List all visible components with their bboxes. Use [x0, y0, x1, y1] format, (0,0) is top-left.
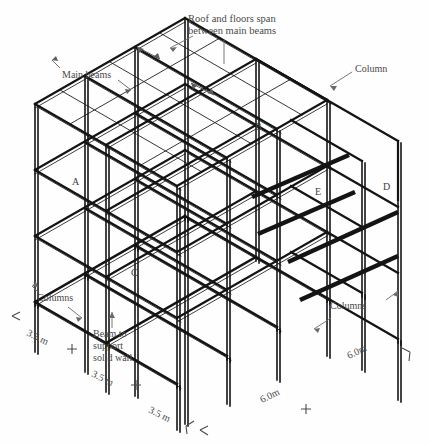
beam-solid-wall-label: Beam to support solid wall — [93, 328, 132, 363]
leader-column — [330, 72, 352, 91]
roof-span-note: Roof and floors span between main beams — [188, 13, 276, 38]
columns-left-label: Columns — [37, 292, 73, 304]
level2-beams-v — [35, 84, 327, 252]
node-label-c: C — [131, 267, 138, 279]
figure-canvas: Roof and floors span between main beams … — [0, 0, 430, 444]
node-label-e: E — [315, 186, 321, 198]
columns-right-label: Columns — [330, 300, 366, 312]
column-label: Column — [355, 63, 387, 75]
dimension-ticks — [12, 312, 410, 435]
node-label-d: D — [383, 181, 390, 193]
main-beams-label: Main beams — [62, 69, 111, 81]
leader-beam-solid-wall — [109, 312, 115, 328]
node-label-a: A — [72, 176, 79, 188]
emphasised-beams — [252, 155, 398, 300]
node-label-b: B — [255, 121, 262, 133]
roof-beams-v — [35, 18, 327, 186]
